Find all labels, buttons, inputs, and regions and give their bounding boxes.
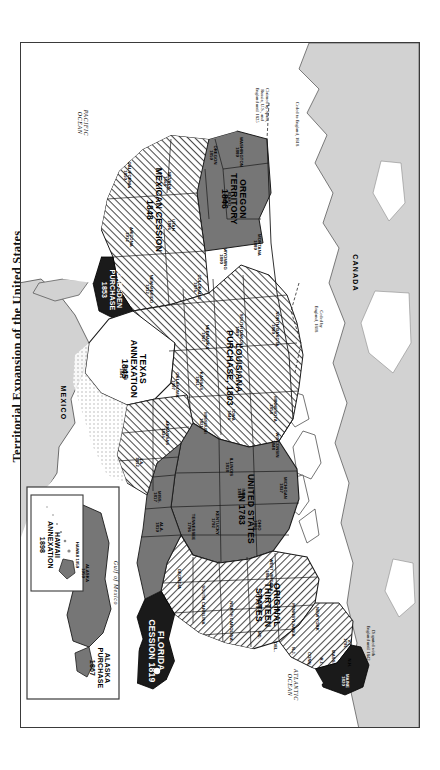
- state-label-maryland: MD.: [257, 623, 261, 647]
- state-label-north-carolina: NORTH CAROLINA: [229, 595, 233, 647]
- territory-label-united-states-1783: UNITED STATES IN 1783: [237, 459, 255, 559]
- state-label-montana: MONTANA1889: [252, 225, 261, 265]
- state-label-ohio: OHIO1803: [252, 511, 261, 539]
- map-sheet-rotation-wrapper: UNITED STATES IN 1783 ORIGINAL THIRTEEN …: [20, 42, 420, 728]
- territory-label-mexican-cession: MEXICAN CESSION 1848: [145, 151, 163, 269]
- state-label-idaho: IDAHO1890: [222, 181, 231, 217]
- annotation-ceded-to-england: Ceded to England, 1818: [294, 81, 299, 167]
- state-label-tennessee: TENNESSEE1796: [186, 505, 195, 549]
- state-label-south-carolina: SOUTH CAROLINA: [201, 579, 205, 631]
- state-label-alabama: ALA.1819: [154, 513, 163, 541]
- state-label-nebraska: NEBRASKA1867: [200, 315, 209, 359]
- state-label-iowa: IOWA1846: [226, 399, 235, 431]
- state-label-texas: TEXAS1845: [118, 355, 127, 391]
- geography-label-atlantic-ocean: ATLANTIC OCEAN: [286, 655, 299, 715]
- annotation-claimed-by-spain: Claimed by Spain, Russia, U.S., and Engl…: [255, 65, 269, 145]
- state-label-maine: MAINE1820: [340, 667, 349, 695]
- state-label-west-virginia: WEST VIRGINIA1863: [264, 553, 273, 597]
- territory-label-florida-cession: FLORIDA CESSION 1819: [147, 603, 165, 699]
- geography-label-mexico: MEXICO: [60, 373, 67, 433]
- state-label-new-york: NEW YORK: [315, 599, 319, 639]
- state-label-north-dakota: NORTH DAKOTA1889: [270, 305, 279, 353]
- state-label-vermont: V.T.1791: [342, 631, 351, 655]
- state-label-arizona: ARIZONA1912: [124, 219, 133, 255]
- state-label-utah: UTAH1896: [166, 209, 175, 241]
- state-label-south-dakota: SOUTH DAKOTA1889: [234, 307, 243, 355]
- state-label-oklahoma: OKLAHOMA1907: [170, 363, 179, 407]
- state-label-rhode-island: R.I.: [319, 651, 323, 671]
- geography-label-canada: CANADA: [352, 243, 359, 303]
- territory-label-alaska-purchase: ALASKA PURCHASE 1867: [89, 633, 111, 703]
- geography-label-pacific-ocean: PACIFIC OCEAN: [76, 93, 89, 153]
- state-label-washington: WASHINGTON1889: [234, 129, 243, 175]
- state-label-hawaii: HAWAII 1959: [75, 537, 79, 573]
- state-label-delaware: DEL.: [273, 635, 277, 659]
- state-label-pennsylvania: PENNSYLVANIA: [291, 595, 295, 645]
- state-label-michigan: MICHIGAN1837: [278, 467, 287, 509]
- state-label-california: CALIFORNIA1850: [122, 153, 131, 197]
- state-label-wyoming: WYOMING1890: [218, 239, 227, 279]
- state-label-virginia: VIRGINIA: [257, 583, 261, 623]
- state-label-massachusetts: MASS.: [331, 643, 335, 671]
- state-label-connecticut: CONN.: [307, 645, 311, 673]
- state-label-kentucky: KENTUCKY1792: [210, 503, 219, 543]
- state-label-wisconsin: WISCONSIN1848: [270, 423, 279, 467]
- state-label-new-mexico: NEW MEXICO1912: [144, 267, 153, 311]
- state-label-indiana: IND.1816: [236, 479, 245, 507]
- state-label-mississippi: MISS.1817: [152, 481, 161, 513]
- map-sheet: UNITED STATES IN 1783 ORIGINAL THIRTEEN …: [20, 42, 420, 728]
- territory-label-hawaii-annexation: HAWAII ANNEXATION 1898: [39, 511, 61, 579]
- state-label-arkansas: ARKANSAS1836: [160, 413, 169, 453]
- state-label-louisiana: LA.1812: [134, 447, 143, 477]
- annotation-disputed-with-england: Disputed with England until 1842: [365, 603, 375, 683]
- state-label-oregon: OREGON1859: [208, 135, 217, 175]
- geography-label-gulf-of-mexico: Gulf of Mexico: [113, 543, 119, 623]
- state-label-colorado: COLORADO1876: [192, 267, 201, 307]
- state-label-missouri: MISSOURI1821: [198, 403, 207, 443]
- state-label-nevada: NEVADA1864: [162, 163, 171, 199]
- state-label-illinois: ILLINOIS1818: [224, 449, 233, 485]
- map-page: Territorial Expansion of the United Stat…: [0, 0, 440, 770]
- map-frame: UNITED STATES IN 1783 ORIGINAL THIRTEEN …: [20, 42, 420, 728]
- state-label-kansas: KANSAS1861: [194, 361, 203, 401]
- state-label-georgia: GEORGIA: [177, 559, 181, 599]
- state-label-alaska: ALASKA1959: [80, 555, 89, 591]
- territory-label-gadsden-purchase: GADSDEN PURCHASE 1853: [101, 257, 123, 323]
- annotation-ceded-by-england: Ceded by England, 1818: [313, 289, 323, 349]
